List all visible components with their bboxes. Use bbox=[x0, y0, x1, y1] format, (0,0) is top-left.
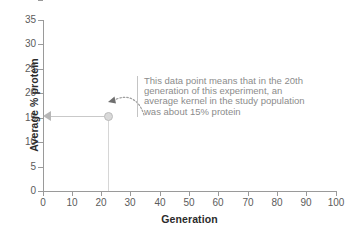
value-leader-line bbox=[50, 116, 108, 117]
x-axis-tick bbox=[336, 191, 337, 196]
x-tick-label: 40 bbox=[145, 198, 175, 208]
x-tick-label: 70 bbox=[233, 198, 263, 208]
x-tick-label: 100 bbox=[321, 198, 351, 208]
y-tick-label: 35 bbox=[12, 15, 36, 25]
x-tick-label: 60 bbox=[203, 198, 233, 208]
y-tick-label: 0 bbox=[12, 186, 36, 196]
x-tick-label: 10 bbox=[57, 198, 87, 208]
x-axis-tick bbox=[189, 191, 190, 196]
leader-arrowhead-icon bbox=[43, 111, 51, 121]
x-axis-title: Generation bbox=[43, 213, 336, 225]
protein-generation-scatter-chart: 35 30 25 20 15 10 5 0 0 10 20 30 40 50 6… bbox=[0, 0, 353, 235]
annotation-callout: This data point means that in the 20th g… bbox=[137, 76, 342, 117]
x-axis-tick bbox=[43, 191, 44, 196]
x-tick-label: 30 bbox=[115, 198, 145, 208]
x-axis-tick bbox=[218, 191, 219, 196]
x-axis-tick bbox=[72, 191, 73, 196]
x-tick-label: 50 bbox=[174, 198, 204, 208]
drop-line-guide bbox=[108, 116, 109, 191]
y-axis-line bbox=[43, 20, 44, 192]
x-axis-tick bbox=[248, 191, 249, 196]
x-tick-label: 90 bbox=[291, 198, 321, 208]
x-tick-label: 0 bbox=[28, 198, 58, 208]
x-axis-tick bbox=[130, 191, 131, 196]
x-axis-tick bbox=[101, 191, 102, 196]
x-axis-tick bbox=[277, 191, 278, 196]
x-axis-tick bbox=[306, 191, 307, 196]
x-tick-label: 80 bbox=[262, 198, 292, 208]
y-axis-tick bbox=[38, 0, 43, 1]
x-axis-tick bbox=[160, 191, 161, 196]
x-tick-label: 20 bbox=[86, 198, 116, 208]
annotation-text: This data point means that in the 20th g… bbox=[144, 76, 342, 117]
y-axis-title: Average % protein bbox=[28, 25, 40, 185]
y-axis-tick bbox=[38, 20, 43, 21]
